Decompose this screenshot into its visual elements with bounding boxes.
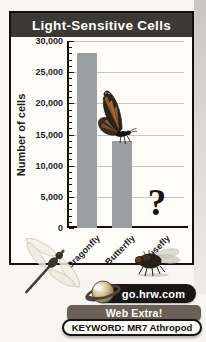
y-minor-tick xyxy=(69,122,72,123)
y-minor-tick xyxy=(69,191,72,192)
keyword-pill: KEYWORD: MR7 Athropod xyxy=(62,319,202,336)
y-minor-tick xyxy=(69,178,72,179)
y-minor-tick xyxy=(69,60,72,61)
butterfly-icon xyxy=(92,87,138,147)
y-major-tick xyxy=(69,41,74,42)
bar-butterfly xyxy=(112,141,132,228)
y-minor-tick xyxy=(69,209,72,210)
y-tick-label: 30,000 xyxy=(18,35,63,47)
keyword-text: KEYWORD: MR7 Athropod xyxy=(72,322,193,333)
housefly-icon xyxy=(133,243,183,277)
y-minor-tick xyxy=(69,141,72,142)
y-minor-tick xyxy=(69,172,72,173)
page-edge-shading xyxy=(194,0,206,294)
y-minor-tick xyxy=(69,53,72,54)
y-major-tick xyxy=(69,72,74,73)
gridline xyxy=(69,41,184,42)
go-url-text: go.hrw.com xyxy=(122,288,185,300)
y-minor-tick xyxy=(69,110,72,111)
y-minor-tick xyxy=(69,97,72,98)
y-tick-label: 0 xyxy=(18,222,63,234)
y-minor-tick xyxy=(69,147,72,148)
y-major-tick xyxy=(69,166,74,167)
y-major-tick xyxy=(69,197,74,198)
question-mark: ? xyxy=(144,183,170,223)
y-major-tick xyxy=(69,103,74,104)
y-tick-label: 15,000 xyxy=(18,129,63,141)
y-minor-tick xyxy=(69,159,72,160)
y-tick-label: 25,000 xyxy=(18,66,63,78)
y-minor-tick xyxy=(69,216,72,217)
y-tick-label: 20,000 xyxy=(18,97,63,109)
y-minor-tick xyxy=(69,47,72,48)
y-tick-label: 5,000 xyxy=(18,191,63,203)
figure-title-bar: Light-Sensitive Cells xyxy=(11,13,192,37)
y-major-tick xyxy=(69,228,74,229)
y-minor-tick xyxy=(69,85,72,86)
page: Light-Sensitive Cells Number of cells 30… xyxy=(0,0,206,342)
y-minor-tick xyxy=(69,116,72,117)
dragonfly-icon xyxy=(4,238,84,306)
saturn-icon xyxy=(84,277,122,309)
y-minor-tick xyxy=(69,78,72,79)
y-minor-tick xyxy=(69,153,72,154)
y-minor-tick xyxy=(69,222,72,223)
y-minor-tick xyxy=(69,91,72,92)
y-minor-tick xyxy=(69,203,72,204)
y-minor-tick xyxy=(69,128,72,129)
y-major-tick xyxy=(69,135,74,136)
y-tick-label: 10,000 xyxy=(18,160,63,172)
y-minor-tick xyxy=(69,184,72,185)
figure-title: Light-Sensitive Cells xyxy=(32,18,171,33)
y-minor-tick xyxy=(69,66,72,67)
